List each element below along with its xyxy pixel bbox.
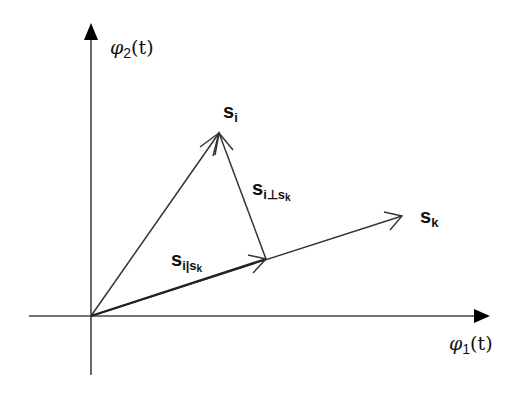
vector-s-i-perp-s-k-label: si⊥sk bbox=[252, 178, 291, 203]
y-axis-label-subscript: 2 bbox=[123, 45, 131, 61]
label-base: s bbox=[252, 177, 263, 199]
y-axis-label: φ2(t) bbox=[110, 38, 154, 60]
label-subscript: i⊥s bbox=[263, 187, 285, 202]
x-axis-label: φ1(t) bbox=[449, 334, 493, 356]
x-axis-label-arg: (t) bbox=[470, 332, 492, 354]
x-axis-label-subscript: 1 bbox=[462, 341, 470, 357]
x-axis-arrowhead-icon bbox=[474, 309, 490, 323]
vector-s-k-label: sk bbox=[420, 206, 438, 229]
vector-s-i-perp-s-k-arrowhead-icon bbox=[215, 133, 233, 155]
vector-s-i bbox=[91, 133, 219, 316]
y-axis-label-base: φ bbox=[110, 36, 123, 58]
label-base: s bbox=[420, 205, 431, 227]
y-axis-arrowhead-icon bbox=[84, 23, 98, 40]
label-base: s bbox=[223, 100, 234, 122]
label-subscript: i bbox=[234, 110, 238, 125]
label-sub-subscript: k bbox=[285, 192, 291, 203]
label-sub-subscript: k bbox=[197, 263, 203, 274]
label-base: s bbox=[171, 248, 182, 270]
vector-s-i-label: si bbox=[223, 101, 238, 124]
y-axis-label-arg: (t) bbox=[131, 36, 153, 58]
vector-s-i-parallel-s-k-label: si|sk bbox=[171, 249, 202, 274]
label-subscript: k bbox=[431, 215, 438, 230]
x-axis-label-base: φ bbox=[449, 332, 462, 354]
label-subscript: i|s bbox=[182, 258, 196, 273]
